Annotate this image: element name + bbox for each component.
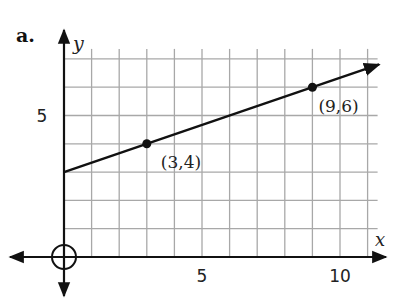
part-label: a.: [16, 24, 35, 46]
x-tick-label: 5: [197, 266, 208, 286]
data-point: [142, 139, 151, 148]
y-tick-label: 5: [37, 106, 48, 126]
plot-line: [64, 64, 379, 172]
y-axis-label: y: [72, 32, 84, 54]
x-tick-label: 10: [329, 266, 351, 286]
x-axis-label: x: [375, 229, 385, 250]
data-point: [308, 83, 317, 92]
point-label: (9,6): [318, 96, 358, 116]
point-label: (3,4): [161, 152, 201, 172]
line-graph: (3,4)(9,6)5105yxa.: [0, 0, 393, 301]
graph-line: [64, 64, 379, 172]
